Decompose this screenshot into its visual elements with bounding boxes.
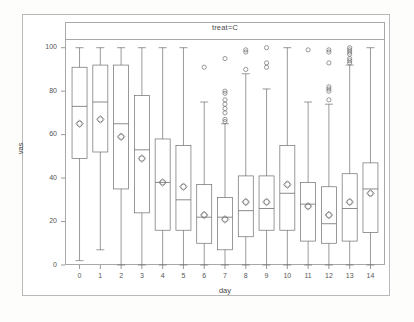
x-tick-2: 2 (112, 272, 130, 279)
boxplot-group-day-5 (176, 48, 191, 265)
outlier-point (223, 102, 227, 106)
x-tick-0: 0 (71, 272, 89, 279)
outlier-point (223, 98, 227, 102)
outlier-point (264, 61, 268, 65)
y-tick-100: 100 (35, 43, 57, 50)
x-tick-3: 3 (133, 272, 151, 279)
y-axis-title: vas (16, 127, 25, 171)
outlier-point (264, 65, 268, 69)
x-tick-14: 14 (361, 272, 379, 279)
boxplot-group-day-12 (321, 48, 336, 265)
boxplot-group-day-3 (134, 48, 149, 265)
y-tick-20: 20 (35, 217, 57, 224)
y-tick-40: 40 (35, 174, 57, 181)
boxplot-group-day-0 (72, 48, 87, 261)
outlier-point (306, 48, 310, 52)
outlier-point (327, 61, 331, 65)
boxplot-group-day-1 (93, 48, 108, 250)
boxplot-group-day-13 (342, 46, 357, 265)
chart-figure: treat=C vas day 020406080100 01234567891… (0, 0, 414, 322)
boxplot-group-day-11 (301, 48, 316, 265)
x-tick-6: 6 (195, 272, 213, 279)
outlier-point (223, 56, 227, 60)
x-tick-8: 8 (237, 272, 255, 279)
outlier-point (327, 98, 331, 102)
outlier-point (223, 106, 227, 110)
boxplot-group-day-9 (259, 46, 274, 265)
y-tick-60: 60 (35, 130, 57, 137)
boxplot-group-day-2 (114, 48, 129, 265)
x-tick-12: 12 (320, 272, 338, 279)
outlier-point (244, 67, 248, 71)
x-tick-11: 11 (299, 272, 317, 279)
boxplot-group-day-6 (197, 65, 212, 265)
x-tick-1: 1 (91, 272, 109, 279)
x-tick-9: 9 (258, 272, 276, 279)
boxplot-group-day-10 (280, 48, 295, 265)
axis-ticks (61, 48, 370, 269)
y-tick-0: 0 (35, 261, 57, 268)
boxplot-group-day-4 (155, 48, 170, 265)
x-tick-5: 5 (174, 272, 192, 279)
boxplot-group-day-7 (218, 56, 233, 265)
y-tick-80: 80 (35, 87, 57, 94)
boxplot-group-day-14 (363, 48, 378, 265)
x-axis-title: day (65, 286, 385, 295)
x-tick-13: 13 (341, 272, 359, 279)
outlier-point (223, 111, 227, 115)
outlier-point (264, 46, 268, 50)
outlier-point (202, 65, 206, 69)
x-tick-10: 10 (278, 272, 296, 279)
boxplot-group-day-8 (238, 48, 253, 265)
x-tick-4: 4 (154, 272, 172, 279)
x-tick-7: 7 (216, 272, 234, 279)
